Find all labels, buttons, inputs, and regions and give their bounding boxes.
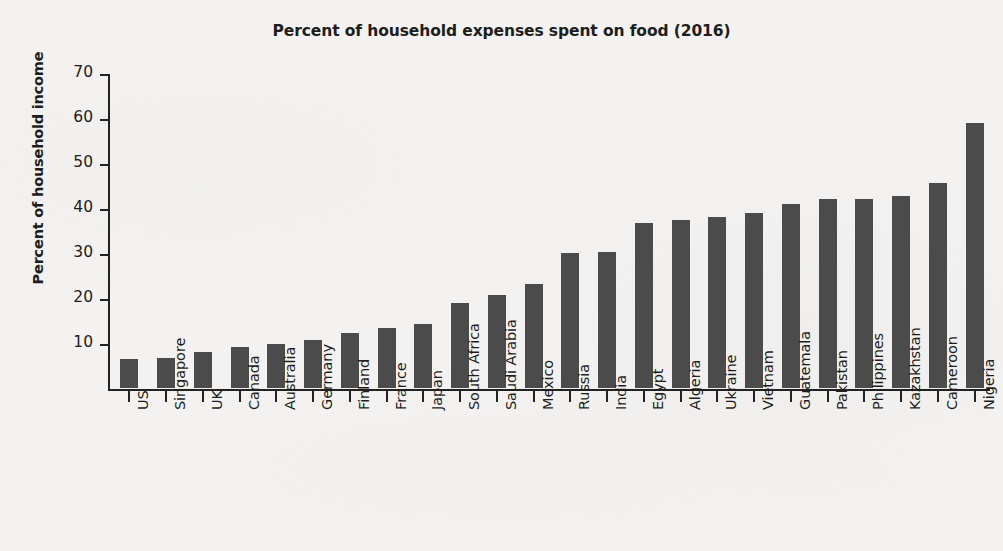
x-tick-label: Russia	[576, 364, 592, 410]
y-tick: 20	[100, 299, 108, 301]
x-tick-label: Egypt	[650, 369, 666, 410]
x-tick	[422, 391, 424, 402]
x-tick	[863, 391, 865, 402]
x-tick-label: India	[613, 375, 629, 410]
x-tick	[533, 391, 535, 402]
x-tick-label: South Africa	[466, 323, 482, 410]
x-tick	[312, 391, 314, 402]
bar	[194, 352, 212, 388]
y-tick: 30	[100, 254, 108, 256]
x-tick-label: Mexico	[540, 360, 556, 410]
y-tick-label: 60	[53, 108, 93, 126]
x-tick-label: Canada	[246, 355, 262, 410]
x-tick-label: Japan	[429, 370, 445, 410]
x-tick-label: Singapore	[172, 338, 188, 410]
x-tick	[716, 391, 718, 402]
x-tick-label: Australia	[282, 347, 298, 410]
y-tick-label: 50	[53, 153, 93, 171]
bar	[966, 123, 984, 388]
y-tick: 50	[100, 164, 108, 166]
x-tick-label: Guatemala	[797, 331, 813, 410]
x-tick-label: Philippines	[870, 333, 886, 410]
x-tick	[349, 391, 351, 402]
x-tick	[643, 391, 645, 402]
y-axis-line	[108, 74, 110, 391]
chart-page: Percent of household expenses spent on f…	[0, 0, 1003, 551]
x-tick-label: Vietnam	[760, 350, 776, 410]
x-tick-label: Cameroon	[944, 336, 960, 410]
bar	[120, 359, 138, 388]
x-tick	[790, 391, 792, 402]
y-tick-label: 10	[53, 333, 93, 351]
x-tick	[606, 391, 608, 402]
y-tick-label: 40	[53, 198, 93, 216]
x-tick-label: Saudi Arabia	[503, 319, 519, 410]
x-tick	[459, 391, 461, 402]
y-tick: 60	[100, 119, 108, 121]
x-tick-label: UK	[209, 390, 225, 410]
x-tick-label: Kazakhstan	[907, 327, 923, 410]
x-tick	[202, 391, 204, 402]
x-tick-label: Germany	[319, 344, 335, 410]
x-tick	[937, 391, 939, 402]
x-tick-label: France	[393, 362, 409, 410]
y-tick: 10	[100, 344, 108, 346]
x-tick-label: US	[135, 390, 151, 410]
x-tick	[900, 391, 902, 402]
y-tick-label: 20	[53, 288, 93, 306]
x-tick	[239, 391, 241, 402]
x-tick	[165, 391, 167, 402]
x-tick	[753, 391, 755, 402]
x-tick	[496, 391, 498, 402]
y-axis-label: Percent of household income	[30, 38, 46, 298]
y-tick: 70	[100, 74, 108, 76]
x-tick-label: Pakistan	[834, 350, 850, 410]
x-tick	[386, 391, 388, 402]
x-tick	[275, 391, 277, 402]
plot-area: 10203040506070 USSingaporeUKCanadaAustra…	[108, 74, 990, 390]
x-tick-label: Finland	[356, 359, 372, 410]
x-tick	[569, 391, 571, 402]
x-tick	[128, 391, 130, 402]
x-tick	[974, 391, 976, 402]
x-tick-label: Ukraine	[723, 355, 739, 410]
x-tick	[827, 391, 829, 402]
y-tick: 40	[100, 209, 108, 211]
x-tick-label: Algeria	[687, 360, 703, 410]
y-tick-label: 70	[53, 63, 93, 81]
chart-title: Percent of household expenses spent on f…	[0, 22, 1003, 40]
y-tick-label: 30	[53, 243, 93, 261]
bar	[598, 252, 616, 388]
x-tick	[680, 391, 682, 402]
x-tick-label: Nigeria	[981, 359, 997, 410]
bar	[635, 223, 653, 388]
